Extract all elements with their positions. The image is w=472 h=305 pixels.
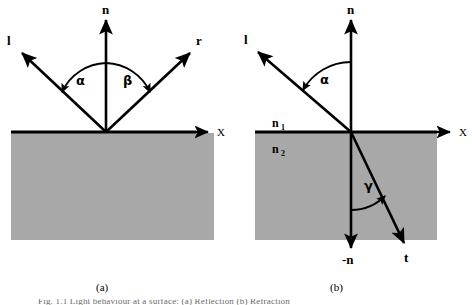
upper-index-symbol: n (272, 116, 279, 130)
figure-caption: Fig. 1.1 Light behaviour at a surface: (… (38, 299, 290, 305)
physics-diagram-svg: X n l r α β (a) X (0, 0, 472, 305)
panel-a-caption-label: (a) (96, 281, 109, 294)
figure-caption-clip: Fig. 1.1 Light behaviour at a surface: (… (0, 299, 472, 305)
lower-index-subscript: 2 (281, 149, 285, 158)
panel-b-x-axis-label: X (459, 126, 467, 138)
panel-a-x-axis-label: X (217, 126, 225, 138)
panel-a-alpha-label: α (76, 73, 85, 88)
panel-a-medium-block (11, 133, 214, 240)
panel-a-reflected-label: r (196, 33, 202, 48)
panel-b-upper-index-label: n 1 (272, 116, 285, 132)
panel-b-negative-normal-label: -n (342, 252, 354, 267)
panel-a: X n l r α β (a) (7, 2, 225, 294)
panel-a-incident-label: l (7, 33, 11, 48)
panel-a-beta-label: β (123, 73, 132, 88)
panel-b: X n -n l t α γ n 1 n (244, 2, 467, 294)
panel-b-gamma-label: γ (364, 178, 373, 193)
panel-b-caption-label: (b) (330, 281, 343, 294)
figure-root: X n l r α β (a) X (0, 0, 472, 305)
upper-index-subscript: 1 (281, 123, 285, 132)
panel-b-normal-label: n (347, 2, 355, 17)
lower-index-symbol: n (272, 142, 279, 156)
panel-a-normal-label: n (102, 2, 110, 17)
panel-b-incident-label: l (244, 32, 248, 47)
panel-b-alpha-label: α (320, 72, 329, 87)
panel-b-transmitted-label: t (404, 250, 409, 265)
